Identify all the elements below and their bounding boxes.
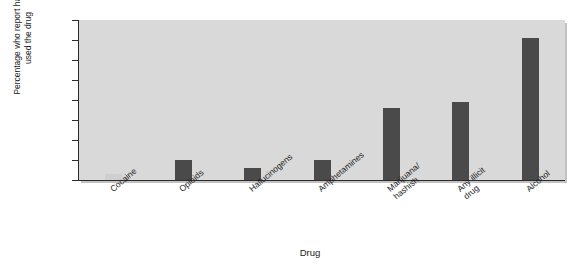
y-axis-tick	[72, 160, 79, 161]
y-axis-tick	[72, 100, 79, 101]
bar	[383, 108, 400, 180]
y-axis-tick	[72, 80, 79, 81]
y-axis-tick	[72, 60, 79, 61]
y-axis-tick	[72, 140, 79, 141]
bar	[522, 38, 539, 180]
x-axis-title: Drug	[0, 247, 576, 258]
plot-area: 01020304050607080	[78, 20, 565, 181]
bar	[452, 102, 469, 180]
y-axis-tick	[72, 180, 79, 181]
x-axis-title-text: Drug	[300, 247, 321, 258]
y-axis-tick	[72, 40, 79, 41]
y-axis-title: Percentage who report having used the dr…	[12, 0, 34, 123]
y-axis-tick	[72, 120, 79, 121]
y-axis-tick	[72, 20, 79, 21]
bar-chart: Percentage who report having used the dr…	[0, 0, 576, 266]
